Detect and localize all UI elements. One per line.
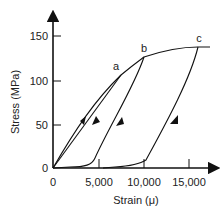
x-tick-label: 15,000 [172, 176, 206, 188]
y-tick-label: 50 [36, 119, 48, 131]
y-tick-label: 150 [30, 30, 48, 42]
arrow-down-icon [116, 117, 124, 126]
y-ticks [53, 36, 61, 125]
y-axis-label: Stress (MPa) [9, 70, 21, 134]
arrow-down-icon [92, 116, 100, 125]
loop-a [53, 75, 121, 168]
x-tick-label: 10,000 [127, 176, 161, 188]
x-tick-label: 5,000 [85, 176, 113, 188]
y-tick-label: 100 [30, 75, 48, 87]
point-label-c: c [196, 32, 202, 44]
y-tick-label: 0 [42, 162, 48, 174]
x-ticks [99, 159, 189, 168]
x-tick-label: 0 [50, 176, 56, 188]
arrow-down-icon [170, 115, 178, 124]
envelope-curve [53, 47, 210, 168]
point-label-a: a [113, 60, 120, 72]
x-axis-label: Strain (μ) [113, 194, 158, 206]
stress-strain-chart: 150 100 50 0 0 5,000 10,000 15,000 Strai… [0, 0, 224, 214]
point-label-b: b [141, 42, 147, 54]
loop-b [53, 57, 144, 168]
